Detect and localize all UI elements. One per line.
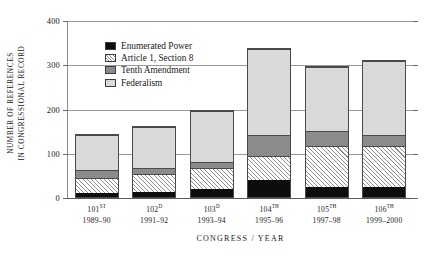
bar-segment-tenth-104[interactable]: [248, 135, 290, 156]
x-tick-ordinal-suffix-102: D: [158, 203, 162, 209]
x-tick-years-104: 1995–96: [241, 215, 299, 226]
y-tick-right-400: [413, 21, 418, 22]
y-tick-right-200: [413, 110, 418, 111]
bar-slot-105: [298, 21, 356, 198]
x-tick-years-102: 1991–92: [126, 215, 184, 226]
legend-item-federalism[interactable]: Federalism: [105, 78, 193, 88]
x-tick-congress-103: 103D: [183, 201, 241, 215]
stacked-bar-chart: NUMBER OF REFERENCES IN CONGRESSIONAL RE…: [0, 0, 424, 256]
bar-segment-tenth-101[interactable]: [76, 170, 118, 178]
y-tick-right-300: [413, 65, 418, 66]
y-axis-title-line-2: IN CONGRESSIONAL RECORD: [17, 45, 28, 160]
bar-segment-tenth-105[interactable]: [306, 131, 348, 145]
x-tick-ordinal-suffix-105: TH: [329, 203, 336, 209]
bar-segment-tenth-103[interactable]: [191, 162, 233, 169]
bar-segment-federalism-105[interactable]: [306, 67, 348, 131]
bar-segment-article-104[interactable]: [248, 156, 290, 180]
x-tick-label-104: 104TH1995–96: [241, 201, 299, 226]
x-tick-congress-102: 102D: [126, 201, 184, 215]
bar-103[interactable]: [190, 110, 234, 198]
y-tick-right-100: [413, 154, 418, 155]
x-tick-ordinal-suffix-104: TH: [272, 203, 279, 209]
chart-legend: Enumerated PowerArticle 1, Section 8Tent…: [105, 41, 193, 88]
bar-segment-enumerated-104[interactable]: [248, 180, 290, 197]
y-tick-label-400: 400: [47, 17, 60, 26]
bar-segment-federalism-101[interactable]: [76, 135, 118, 171]
legend-label-enumerated: Enumerated Power: [121, 41, 192, 51]
legend-label-article: Article 1, Section 8: [121, 53, 193, 63]
bar-segment-federalism-102[interactable]: [133, 127, 175, 168]
x-tick-years-103: 1993–94: [183, 215, 241, 226]
bar-segment-federalism-106[interactable]: [363, 61, 405, 135]
x-tick-ordinal-suffix-103: D: [216, 203, 220, 209]
bar-slot-104: [241, 21, 299, 198]
x-tick-congress-106: 106TH: [356, 201, 414, 215]
x-tick-label-106: 106TH1999–2000: [356, 201, 414, 226]
bar-segment-article-103[interactable]: [191, 168, 233, 189]
x-tick-congress-104: 104TH: [241, 201, 299, 215]
y-tick-label-0: 0: [56, 194, 60, 203]
y-tick-label-200: 200: [47, 105, 60, 114]
legend-swatch-enumerated-icon: [105, 42, 116, 50]
x-tick-congress-105: 105TH: [298, 201, 356, 215]
legend-label-tenth: Tenth Amendment: [121, 65, 190, 75]
y-axis-title-line-1: NUMBER OF REFERENCES: [6, 45, 17, 160]
x-tick-congress-101: 101ST: [68, 201, 126, 215]
legend-item-enumerated[interactable]: Enumerated Power: [105, 41, 193, 51]
bar-104[interactable]: [247, 48, 291, 198]
legend-swatch-tenth-icon: [105, 66, 116, 74]
x-tick-label-101: 101ST1989–90: [68, 201, 126, 226]
bar-segment-enumerated-101[interactable]: [76, 193, 118, 197]
x-axis-tick-labels: 101ST1989–90102D1991–92103D1993–94104TH1…: [68, 201, 413, 226]
bar-segment-article-105[interactable]: [306, 146, 348, 187]
x-tick-years-101: 1989–90: [68, 215, 126, 226]
y-axis-title: NUMBER OF REFERENCES IN CONGRESSIONAL RE…: [0, 0, 34, 205]
y-tick-right-0: [413, 198, 418, 199]
x-axis-title: CONGRESS / YEAR: [68, 234, 413, 243]
bar-segment-enumerated-106[interactable]: [363, 187, 405, 197]
x-tick-label-103: 103D1993–94: [183, 201, 241, 226]
legend-label-federalism: Federalism: [121, 78, 162, 88]
x-tick-label-105: 105TH1997–98: [298, 201, 356, 226]
bar-segment-federalism-103[interactable]: [191, 111, 233, 162]
bar-segment-enumerated-102[interactable]: [133, 192, 175, 197]
bar-segment-article-101[interactable]: [76, 178, 118, 193]
bar-105[interactable]: [305, 66, 349, 198]
bar-segment-enumerated-103[interactable]: [191, 189, 233, 197]
x-axis-line: [68, 198, 413, 199]
x-tick-years-106: 1999–2000: [356, 215, 414, 226]
bar-102[interactable]: [132, 126, 176, 198]
bar-slot-106: [356, 21, 414, 198]
y-tick-label-100: 100: [47, 149, 60, 158]
legend-swatch-article-icon: [105, 54, 116, 62]
bar-segment-federalism-104[interactable]: [248, 49, 290, 135]
bar-segment-enumerated-105[interactable]: [306, 187, 348, 197]
x-tick-years-105: 1997–98: [298, 215, 356, 226]
legend-swatch-federalism-icon: [105, 79, 116, 87]
bar-101[interactable]: [75, 134, 119, 198]
y-tick-label-300: 300: [47, 61, 60, 70]
legend-item-article[interactable]: Article 1, Section 8: [105, 53, 193, 63]
bar-segment-tenth-106[interactable]: [363, 135, 405, 146]
x-tick-ordinal-suffix-101: ST: [100, 203, 106, 209]
bar-segment-article-102[interactable]: [133, 174, 175, 192]
legend-item-tenth[interactable]: Tenth Amendment: [105, 65, 193, 75]
bar-segment-article-106[interactable]: [363, 146, 405, 187]
x-tick-ordinal-suffix-106: TH: [387, 203, 394, 209]
bar-106[interactable]: [362, 60, 406, 198]
x-tick-label-102: 102D1991–92: [126, 201, 184, 226]
